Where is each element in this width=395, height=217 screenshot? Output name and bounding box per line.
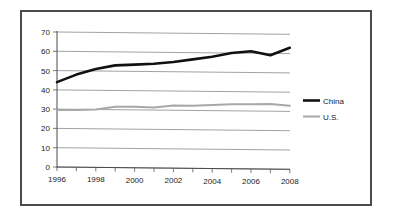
- y-tick-label-30: 30: [41, 105, 50, 114]
- x-axis-tick-labels: 1996 1998 2000 2002 2004 2006 2008: [48, 175, 299, 186]
- y-tick-label-10: 10: [41, 144, 50, 153]
- y-tick-label-60: 60: [41, 47, 50, 56]
- y-tick-label-50: 50: [41, 67, 50, 76]
- x-tick-label-1998: 1998: [87, 175, 105, 184]
- series-line-china: [57, 48, 290, 82]
- x-tick-label-2004: 2004: [203, 177, 221, 186]
- y-tick-label-40: 40: [41, 86, 50, 95]
- gridline-20: [57, 128, 290, 130]
- gridline-40: [57, 90, 290, 92]
- x-tick-label-2000: 2000: [126, 176, 144, 185]
- y-axis-tickmarks: [53, 32, 57, 167]
- chart-figure: 70 60 50 40 30 20 10 0 1996: [0, 0, 395, 217]
- line-chart: 70 60 50 40 30 20 10 0 1996: [0, 0, 395, 217]
- y-axis-tick-labels: 70 60 50 40 30 20 10 0: [41, 28, 50, 172]
- y-tick-label-0: 0: [46, 163, 51, 172]
- x-tick-label-1996: 1996: [48, 175, 66, 184]
- x-tick-label-2006: 2006: [242, 177, 260, 186]
- x-tick-label-2008: 2008: [281, 177, 299, 186]
- gridline-70: [57, 32, 290, 34]
- series-line-us: [57, 104, 290, 110]
- y-tick-label-70: 70: [41, 28, 50, 37]
- y-tick-label-20: 20: [41, 124, 50, 133]
- legend-label-us: U.S.: [323, 113, 339, 122]
- chart-legend: China U.S.: [303, 97, 344, 122]
- legend-label-china: China: [323, 97, 344, 106]
- gridline-10: [57, 148, 290, 150]
- x-tick-label-2002: 2002: [165, 176, 183, 185]
